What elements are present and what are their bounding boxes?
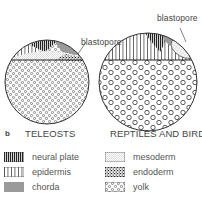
yolk-swatch-icon	[105, 182, 125, 192]
reptiles-birds-title: REPTILES AND BIRDS	[110, 128, 202, 139]
legend: neural plate epidermis chorda mesoderm e…	[0, 140, 202, 197]
legend-item-mesoderm: mesoderm	[105, 151, 176, 163]
teleost-blastopore-label: blastopore	[81, 37, 122, 47]
endoderm-swatch-icon	[105, 167, 125, 177]
mesoderm-swatch-icon	[105, 152, 125, 162]
legend-item-chorda: chorda	[4, 181, 60, 193]
legend-item-endoderm: endoderm	[105, 166, 174, 178]
reptile-blastopore-label: blastopore	[157, 13, 198, 23]
teleost-title: TELEOSTS	[25, 128, 75, 139]
chorda-swatch-icon	[4, 182, 24, 192]
epidermis-swatch-icon	[4, 167, 24, 177]
legend-item-neural-plate: neural plate	[4, 151, 79, 163]
legend-item-epidermis: epidermis	[4, 166, 71, 178]
embryo-diagram-figure: blastopore blastopore b TELEOSTS REPTILE…	[0, 0, 202, 140]
legend-item-yolk: yolk	[105, 181, 149, 193]
teleost-diagram	[0, 38, 100, 128]
neural-plate-swatch-icon	[4, 152, 24, 162]
panel-label: b	[5, 129, 10, 138]
